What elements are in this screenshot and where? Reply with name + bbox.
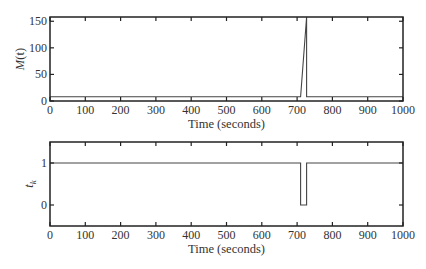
x-tick-label: 400 [182,228,200,242]
x-tick-label: 0 [47,228,53,242]
x-tick-label: 0 [47,103,53,117]
x-tick-label: 800 [323,228,341,242]
mt-series-line [50,17,403,97]
x-tick-label: 700 [288,228,306,242]
tk-plot-panel: 01002003004005006007008009001000 01 Time… [22,142,415,256]
x-tick-label: 100 [76,228,94,242]
x-tick-label: 200 [112,103,130,117]
tk-y-axis: 01 [41,156,403,212]
y-tick-label: 150 [29,14,47,28]
x-tick-label: 900 [359,228,377,242]
mt-x-axis: 01002003004005006007008009001000 [47,17,415,117]
x-tick-label: 900 [359,103,377,117]
y-tick-label: 0 [41,94,47,108]
x-tick-label: 500 [218,103,236,117]
tk-x-axis: 01002003004005006007008009001000 [47,142,415,242]
y-tick-label: 1 [41,156,47,170]
mt-y-axis-title: M(t) [13,48,27,71]
series-polyline [50,163,403,205]
x-tick-label: 600 [253,103,271,117]
series-polyline [50,17,403,97]
x-tick-label: 400 [182,103,200,117]
y-tick-label: 50 [35,67,47,81]
x-tick-label: 100 [76,103,94,117]
chart-figure: 01002003004005006007008009001000 0501001… [0,0,426,269]
x-tick-label: 800 [323,103,341,117]
mt-plot-frame [50,17,403,101]
tk-plot-frame [50,142,403,226]
x-tick-label: 700 [288,103,306,117]
tk-y-axis-title: tk [22,179,38,187]
x-tick-label: 300 [147,103,165,117]
tk-x-axis-title: Time (seconds) [188,242,265,256]
x-tick-label: 600 [253,228,271,242]
tk-series-line [50,163,403,205]
x-tick-label: 200 [112,228,130,242]
y-tick-label: 0 [41,198,47,212]
x-tick-label: 1000 [391,103,415,117]
y-tick-label: 100 [29,41,47,55]
x-tick-label: 1000 [391,228,415,242]
mt-plot-panel: 01002003004005006007008009001000 0501001… [13,14,415,131]
mt-y-axis: 050100150 [29,14,403,108]
mt-x-axis-title: Time (seconds) [188,117,265,131]
x-tick-label: 500 [218,228,236,242]
x-tick-label: 300 [147,228,165,242]
